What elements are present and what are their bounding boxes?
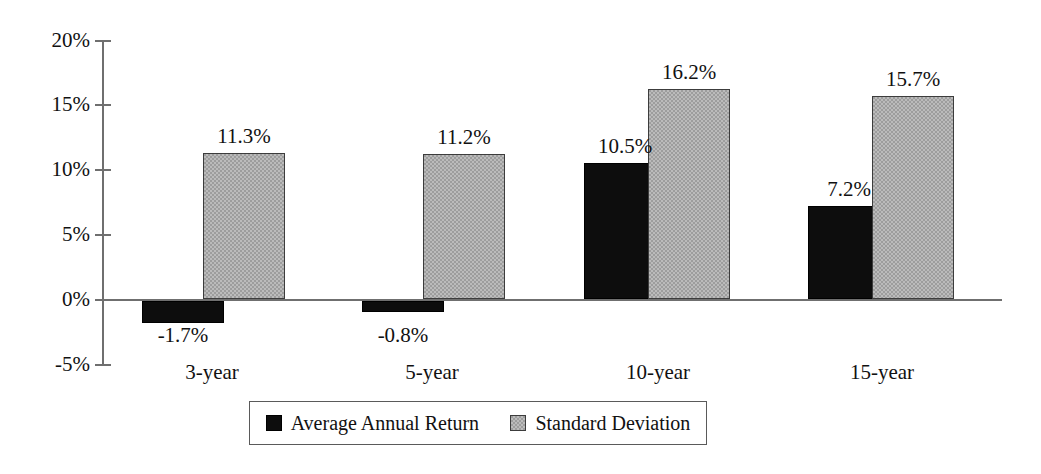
value-label-return-3-year: -1.7%: [128, 325, 238, 346]
value-label-stddev-3-year: 11.3%: [189, 126, 299, 147]
y-axis-label-0: 0%: [8, 289, 90, 310]
y-tick-20: [95, 40, 111, 42]
y-axis-label-neg5: -5%: [8, 354, 90, 375]
x-axis-label-10-year: 10-year: [578, 360, 738, 384]
y-axis-label-5: 5%: [8, 224, 90, 245]
x-axis-label-3-year: 3-year: [132, 360, 292, 384]
y-tick-10: [95, 169, 111, 171]
bar-chart: 20% 15% 10% 5% 0% -5% -1.7% 11.3% -0.8% …: [0, 0, 1041, 474]
y-tick-15: [95, 104, 111, 106]
bar-stddev-3-year[interactable]: [203, 153, 285, 299]
chart-legend: Average Annual Return Standard Deviation: [249, 401, 707, 445]
y-axis-label-15: 15%: [8, 94, 90, 115]
y-axis-label-20: 20%: [8, 30, 90, 51]
legend-label-standard-deviation: Standard Deviation: [535, 413, 690, 433]
value-label-return-5-year: -0.8%: [348, 325, 458, 346]
x-axis-label-5-year: 5-year: [352, 360, 512, 384]
x-axis-label-15-year: 15-year: [802, 360, 962, 384]
y-axis-line: [102, 40, 104, 365]
value-label-return-15-year: 7.2%: [794, 179, 904, 200]
y-tick-neg5: [95, 364, 111, 366]
bar-stddev-10-year[interactable]: [648, 89, 730, 299]
value-label-stddev-5-year: 11.2%: [409, 127, 519, 148]
value-label-stddev-10-year: 16.2%: [634, 62, 744, 83]
bar-return-5-year[interactable]: [362, 301, 444, 312]
y-tick-5: [95, 234, 111, 236]
y-axis-label-10: 10%: [8, 159, 90, 180]
gray-square-icon: [510, 415, 526, 431]
legend-entry-standard-deviation[interactable]: Standard Deviation: [510, 413, 690, 433]
value-label-stddev-15-year: 15.7%: [858, 69, 968, 90]
value-label-return-10-year: 10.5%: [570, 136, 680, 157]
legend-entry-average-annual-return[interactable]: Average Annual Return: [266, 413, 479, 433]
black-square-icon: [266, 415, 282, 431]
bar-stddev-5-year[interactable]: [423, 154, 505, 299]
plot-area: 20% 15% 10% 5% 0% -5% -1.7% 11.3% -0.8% …: [0, 0, 1041, 380]
zero-baseline: [102, 299, 1002, 301]
bar-return-3-year[interactable]: [142, 301, 224, 323]
legend-label-average-annual-return: Average Annual Return: [291, 413, 479, 433]
